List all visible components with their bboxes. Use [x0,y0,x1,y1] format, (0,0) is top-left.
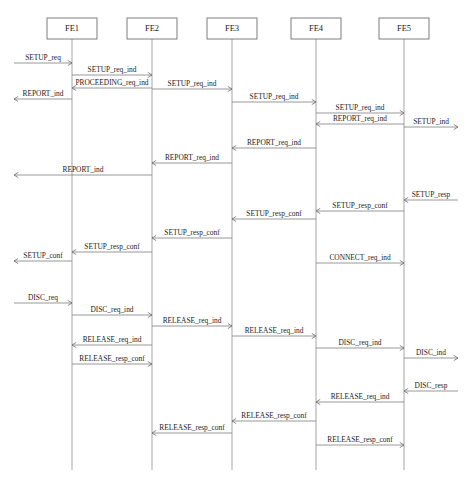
actor-box-fe5[interactable]: FE5 [379,18,429,39]
actor-label: FE2 [145,23,159,33]
message-arrow[interactable]: SETUP_resp_conf [316,201,404,214]
message-label: SETUP_req_ind [250,92,299,101]
message-label: SETUP_resp_conf [164,228,220,237]
message-arrow[interactable]: RELEASE_req_ind [316,392,404,405]
actor-box-fe1[interactable]: FE1 [47,18,97,39]
actor-label: FE5 [397,23,411,33]
message-label: CONNECT_req_ind [329,253,390,262]
message-label: REPORT_ind [62,165,103,174]
message-arrow[interactable]: SETUP_resp_conf [152,228,232,241]
message-arrow[interactable]: RELEASE_resp_conf [232,411,316,424]
actor-box-fe3[interactable]: FE3 [207,18,257,39]
message-arrow[interactable]: SETUP_req_ind [72,65,152,78]
message-arrow[interactable]: SETUP_ind [404,117,458,130]
message-label: REPORT_ind [22,89,63,98]
sequence-diagram-canvas: SETUP_reqSETUP_req_indPROCEEDING_req_ind… [0,0,466,484]
messages-layer: SETUP_reqSETUP_req_indPROCEEDING_req_ind… [14,53,458,448]
message-arrow[interactable]: SETUP_resp [404,190,458,203]
actor-box-fe2[interactable]: FE2 [127,18,177,39]
message-arrow[interactable]: RELEASE_resp_conf [72,354,152,367]
message-label: SETUP_conf [23,251,63,260]
message-label: SETUP_resp [412,190,451,199]
message-label: SETUP_ind [413,117,449,126]
message-arrow[interactable]: SETUP_conf [14,251,72,264]
message-label: DISC_resp [415,381,448,390]
message-label: SETUP_resp_conf [332,201,388,210]
message-label: DISC_req [28,293,58,302]
message-arrow[interactable]: DISC_req_ind [316,338,404,351]
message-arrow[interactable]: DISC_resp [404,381,458,394]
message-label: REPORT_req_ind [333,114,387,123]
message-arrow[interactable]: RELEASE_resp_conf [316,435,404,448]
message-arrow[interactable]: REPORT_req_ind [152,153,232,166]
message-label: RELEASE_resp_conf [327,435,393,444]
message-arrow[interactable]: DISC_req_ind [72,305,152,318]
message-arrow[interactable]: SETUP_resp_conf [72,242,152,255]
message-label: RELEASE_resp_conf [79,354,145,363]
message-label: PROCEEDING_req_ind [75,78,148,87]
message-label: SETUP_req_ind [88,65,137,74]
message-arrow[interactable]: SETUP_req_ind [232,92,316,105]
message-label: RELEASE_req_ind [163,316,222,325]
message-label: REPORT_req_ind [165,153,219,162]
message-arrow[interactable]: RELEASE_req_ind [152,316,232,329]
message-label: RELEASE_req_ind [331,392,390,401]
message-arrow[interactable]: SETUP_req [14,53,72,66]
message-arrow[interactable]: RELEASE_req_ind [232,326,316,339]
message-label: SETUP_req_ind [336,103,385,112]
message-label: RELEASE_req_ind [83,335,142,344]
actors-layer: FE1FE2FE3FE4FE5 [47,18,429,39]
message-label: RELEASE_resp_conf [241,411,307,420]
actor-label: FE3 [225,23,239,33]
message-arrow[interactable]: CONNECT_req_ind [316,253,404,266]
message-label: DISC_req_ind [338,338,381,347]
message-label: RELEASE_req_ind [245,326,304,335]
message-label: SETUP_req [25,53,61,62]
message-arrow[interactable]: REPORT_req_ind [232,138,316,151]
message-arrow[interactable]: REPORT_req_ind [316,114,404,127]
message-arrow[interactable]: DISC_req [14,293,72,306]
message-label: RELEASE_resp_conf [159,423,225,432]
message-label: SETUP_req_ind [168,79,217,88]
message-arrow[interactable]: DISC_ind [404,348,458,361]
actor-label: FE4 [309,23,324,33]
message-arrow[interactable]: SETUP_resp_conf [232,209,316,222]
message-label: DISC_ind [416,348,446,357]
message-arrow[interactable]: RELEASE_req_ind [72,335,152,348]
message-arrow[interactable]: PROCEEDING_req_ind [72,78,152,91]
actor-box-fe4[interactable]: FE4 [291,18,341,39]
message-label: SETUP_resp_conf [246,209,302,218]
message-arrow[interactable]: RELEASE_resp_conf [152,423,232,436]
message-arrow[interactable]: REPORT_ind [14,89,72,102]
message-arrow[interactable]: REPORT_ind [14,165,152,178]
message-label: REPORT_req_ind [247,138,301,147]
actor-label: FE1 [65,23,79,33]
message-label: DISC_req_ind [90,305,133,314]
sequence-diagram: SETUP_reqSETUP_req_indPROCEEDING_req_ind… [0,0,466,484]
message-arrow[interactable]: SETUP_req_ind [152,79,232,92]
message-label: SETUP_resp_conf [84,242,140,251]
